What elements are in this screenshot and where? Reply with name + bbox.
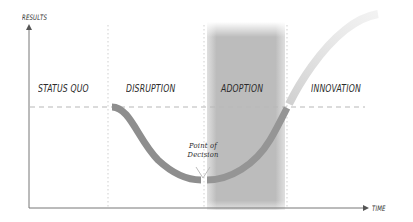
change-curve-diagram: RESULTS TIME STATUS QUO DISRUPTION ADOPT… xyxy=(0,0,413,222)
point-of-decision-label: Point of Decision xyxy=(187,141,219,159)
x-axis-label: TIME xyxy=(372,204,386,213)
phase-label-innovation: INNOVATION xyxy=(311,82,361,94)
point-of-decision-line2: Decision xyxy=(187,150,219,159)
diagram-canvas xyxy=(0,0,413,222)
phase-label-disruption: DISRUPTION xyxy=(126,82,175,94)
point-of-decision-line1: Point of xyxy=(187,141,219,150)
phase-label-status-quo: STATUS QUO xyxy=(38,82,89,94)
phase-label-adoption: ADOPTION xyxy=(221,82,263,94)
x-axis-arrow-icon xyxy=(363,205,369,211)
y-axis-arrow-icon xyxy=(26,24,32,30)
y-axis-label: RESULTS xyxy=(22,13,47,22)
